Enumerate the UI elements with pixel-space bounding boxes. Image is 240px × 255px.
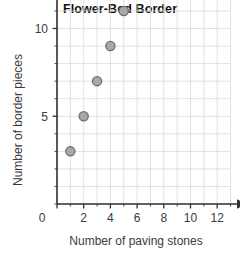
data-point [106, 41, 115, 50]
x-tick-label: 0 [39, 211, 46, 225]
data-point [79, 112, 88, 121]
y-tick-label: 10 [35, 22, 49, 36]
axis-lines [57, 0, 239, 204]
data-point [66, 147, 75, 156]
x-axis-title: Number of paving stones [69, 234, 202, 248]
chart-container: Flower-Bed Border 024681012 510152025 Nu… [0, 0, 240, 255]
scatter-plot: 024681012 510152025 Number of paving sto… [0, 0, 240, 255]
x-tick-label: 12 [211, 211, 225, 225]
x-tick-label: 6 [134, 211, 141, 225]
y-tick-label: 5 [41, 110, 48, 124]
x-tick-label: 8 [160, 211, 167, 225]
x-tick-labels: 024681012 [39, 211, 225, 225]
y-tick-labels: 510152025 [35, 0, 49, 124]
x-tick-label: 10 [184, 211, 198, 225]
data-point [92, 77, 101, 86]
x-tick-label: 2 [80, 211, 87, 225]
grid-lines [57, 0, 231, 204]
y-axis-title: Number of border pieces [11, 54, 25, 186]
data-point [119, 6, 128, 15]
x-tick-label: 4 [107, 211, 114, 225]
